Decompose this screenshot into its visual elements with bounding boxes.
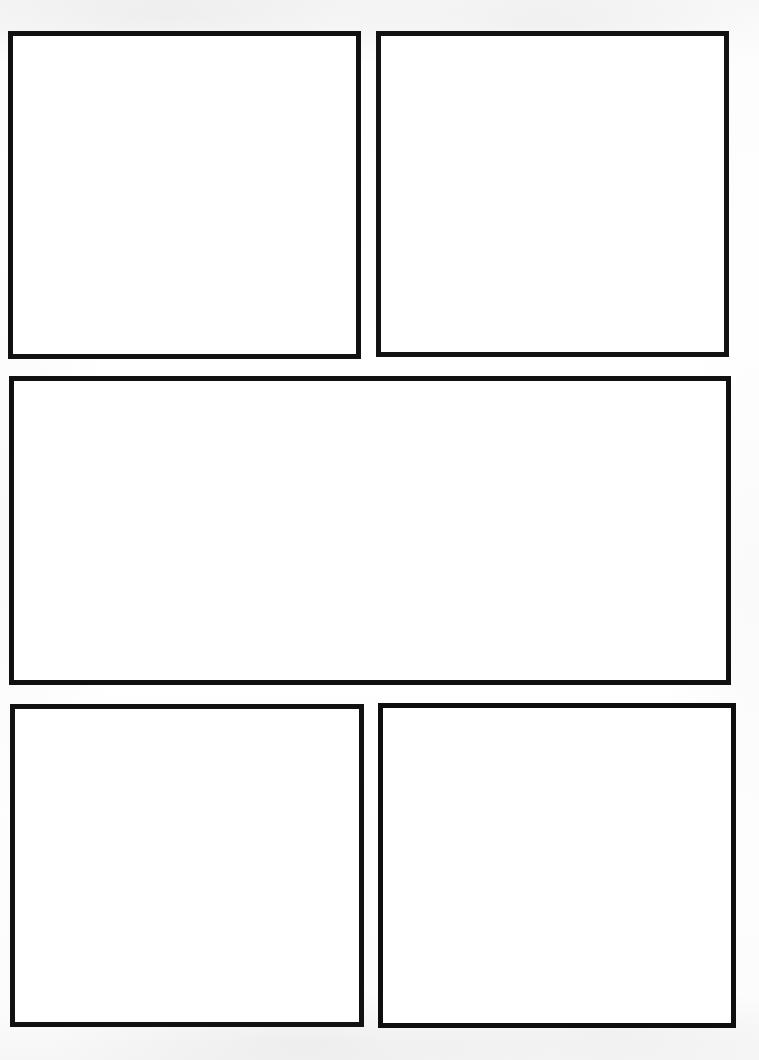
comic-panel-1[interactable] bbox=[8, 31, 361, 359]
comic-panel-5[interactable] bbox=[378, 703, 736, 1028]
panel-4-content bbox=[15, 709, 359, 1022]
comic-panel-3[interactable] bbox=[9, 376, 731, 685]
panel-2-content bbox=[381, 36, 724, 352]
panel-1-content bbox=[13, 36, 356, 354]
comic-panel-2[interactable] bbox=[376, 31, 729, 357]
panel-3-content bbox=[14, 381, 726, 680]
comic-page bbox=[0, 0, 759, 1060]
panel-5-content bbox=[383, 708, 731, 1023]
comic-panel-4[interactable] bbox=[10, 704, 364, 1027]
